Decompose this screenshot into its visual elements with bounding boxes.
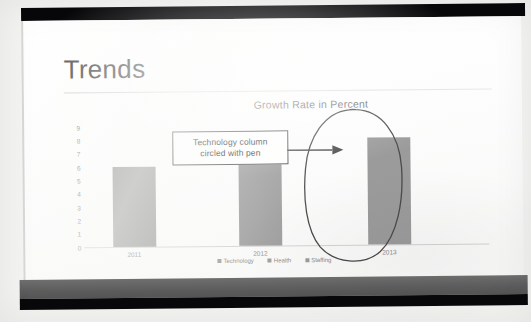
legend-item-technology: Technology	[217, 258, 253, 264]
x-axis-label-2011: 2011	[104, 251, 164, 259]
y-axis-tick: 1	[67, 231, 81, 238]
bar-2011	[112, 167, 156, 247]
y-axis-tick: 6	[66, 164, 80, 171]
chart-legend: TechnologyHealthStaffing	[25, 255, 523, 266]
y-axis-tick: 5	[67, 177, 81, 184]
presentation-slide: Trends Growth Rate in Percent 9876543210…	[23, 16, 523, 280]
callout-line-1: Technology column	[193, 137, 268, 148]
legend-label: Health	[274, 257, 291, 263]
display-screen: Trends Growth Rate in Percent 9876543210…	[13, 3, 528, 312]
pen-ellipse-icon	[299, 105, 411, 266]
legend-swatch-icon	[217, 259, 221, 263]
y-axis-tick: 3	[67, 204, 81, 211]
x-axis-label-2012: 2012	[230, 249, 290, 257]
photographed-slide: Trends Growth Rate in Percent 9876543210…	[0, 0, 531, 322]
y-axis-tick: 8	[66, 137, 80, 144]
legend-label: Technology	[223, 258, 253, 264]
y-axis-tick: 9	[66, 124, 80, 131]
legend-swatch-icon	[268, 259, 272, 263]
y-axis-tick: 7	[66, 151, 80, 158]
legend-item-health: Health	[268, 257, 291, 263]
y-axis-tick: 2	[67, 217, 81, 224]
annotation-callout-box: Technology column circled with pen	[172, 130, 288, 165]
bar-2012	[238, 152, 282, 246]
y-axis-tick: 0	[67, 244, 81, 251]
callout-line-2: circled with pen	[200, 148, 260, 159]
y-axis-tick: 4	[67, 191, 81, 198]
